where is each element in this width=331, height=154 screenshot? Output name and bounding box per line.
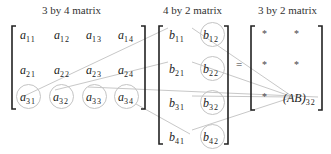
matrix-b-element: b31 [169, 96, 185, 112]
result-element-ab32: (AB)32 [283, 91, 316, 107]
placeholder-star: * [294, 59, 299, 70]
matrix-a-element: a24 [118, 63, 134, 79]
placeholder-star: * [262, 59, 267, 70]
matrix-b-title: 4 by 2 matrix [163, 4, 222, 16]
matrix-a-element-highlighted: a33 [86, 90, 102, 106]
matrix-b-element-highlighted: b22 [203, 62, 219, 78]
matrix-b-element: b21 [169, 62, 185, 78]
matrix-a-element-highlighted: a31 [20, 90, 36, 106]
matrix-b-element: b41 [169, 130, 185, 146]
matrix-a-element: a23 [86, 63, 102, 79]
placeholder-star: * [294, 28, 299, 39]
placeholder-star: * [262, 91, 267, 102]
matrix-a-element: a14 [118, 28, 134, 44]
equals-sign: = [236, 58, 242, 70]
matrix-ab-title: 3 by 2 matrix [258, 4, 317, 16]
matrix-a-element-highlighted: a32 [53, 90, 69, 106]
placeholder-star: * [262, 28, 267, 39]
matrix-a-element: a13 [86, 28, 102, 44]
matrix-b-element-highlighted: b12 [203, 28, 219, 44]
matrix-a-element: a22 [54, 63, 70, 79]
connector-lines [0, 0, 331, 154]
matrix-a-title: 3 by 4 matrix [42, 4, 101, 16]
matrix-b-element-highlighted: b32 [203, 96, 219, 112]
matrix-a-element: a11 [20, 28, 36, 44]
matrix-b-element: b11 [169, 28, 185, 44]
matrix-b-element-highlighted: b42 [203, 130, 219, 146]
matrix-a-element-highlighted: a34 [118, 90, 134, 106]
matrix-a-element: a21 [20, 63, 36, 79]
matrix-a-element: a12 [54, 28, 70, 44]
